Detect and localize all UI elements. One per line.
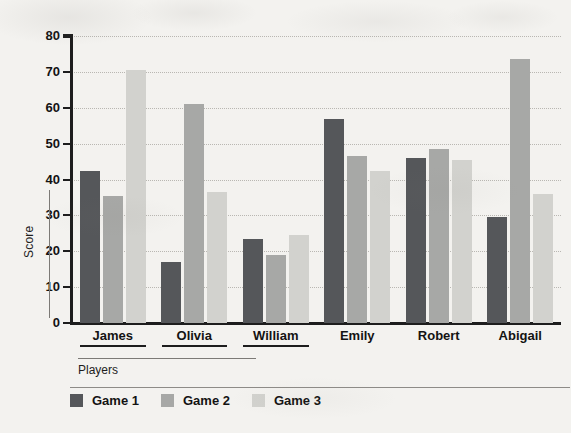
bar[interactable] bbox=[207, 192, 227, 323]
bar[interactable] bbox=[80, 171, 100, 323]
legend-swatch-icon bbox=[161, 394, 174, 407]
x-axis-label: Robert bbox=[398, 328, 480, 343]
x-axis-label: Abigail bbox=[480, 328, 562, 343]
legend-item[interactable]: Game 1 bbox=[70, 393, 139, 408]
bar-group bbox=[235, 36, 317, 323]
bar-group bbox=[72, 36, 154, 323]
x-label-underline bbox=[243, 345, 309, 347]
y-axis-tick-label: 60 bbox=[32, 101, 60, 114]
bar-group bbox=[317, 36, 399, 323]
x-axis-label: Emily bbox=[317, 328, 399, 343]
bar-group bbox=[398, 36, 480, 323]
legend-label: Game 3 bbox=[274, 393, 321, 408]
y-axis-tick-label: 40 bbox=[32, 173, 60, 186]
bar[interactable] bbox=[103, 196, 123, 323]
y-axis-tick bbox=[63, 35, 71, 37]
y-axis-tick bbox=[63, 107, 71, 109]
bar[interactable] bbox=[452, 160, 472, 323]
y-axis-tick bbox=[63, 71, 71, 73]
y-axis-tick bbox=[63, 143, 71, 145]
legend-swatch-icon bbox=[70, 394, 83, 407]
y-axis-tick-label: 70 bbox=[32, 65, 60, 78]
bar[interactable] bbox=[370, 171, 390, 323]
x-axis-labels: JamesOliviaWilliamEmilyRobertAbigail bbox=[72, 328, 561, 343]
y-axis-tick-label: 50 bbox=[32, 137, 60, 150]
bar[interactable] bbox=[243, 239, 263, 323]
x-axis-label: Olivia bbox=[154, 328, 236, 343]
y-axis-tick bbox=[63, 214, 71, 216]
y-axis-tick-label: 20 bbox=[32, 244, 60, 257]
bar[interactable] bbox=[161, 262, 181, 323]
bar[interactable] bbox=[347, 156, 367, 323]
bar[interactable] bbox=[533, 194, 553, 323]
legend-item[interactable]: Game 3 bbox=[252, 393, 321, 408]
legend-item[interactable]: Game 2 bbox=[161, 393, 230, 408]
x-label-underline bbox=[162, 345, 228, 347]
y-axis-tick-label: 30 bbox=[32, 208, 60, 221]
x-axis-label: James bbox=[72, 328, 154, 343]
bar-group bbox=[154, 36, 236, 323]
y-axis-tick bbox=[63, 250, 71, 252]
x-axis-label: William bbox=[235, 328, 317, 343]
chart-legend: Game 1Game 2Game 3 bbox=[70, 393, 321, 408]
y-axis-tick-label: 0 bbox=[32, 316, 60, 329]
y-axis-tick bbox=[63, 286, 71, 288]
bar[interactable] bbox=[406, 158, 426, 323]
legend-label: Game 2 bbox=[183, 393, 230, 408]
bar[interactable] bbox=[184, 104, 204, 323]
bar[interactable] bbox=[324, 119, 344, 323]
legend-label: Game 1 bbox=[92, 393, 139, 408]
bar-chart: 01020304050607080 Score JamesOliviaWilli… bbox=[0, 0, 571, 433]
legend-swatch-icon bbox=[252, 394, 265, 407]
x-axis-title-rule bbox=[78, 358, 256, 359]
bar[interactable] bbox=[487, 217, 507, 323]
bar-groups bbox=[72, 36, 561, 323]
bar[interactable] bbox=[510, 59, 530, 323]
bar-group bbox=[480, 36, 562, 323]
bar[interactable] bbox=[429, 149, 449, 323]
x-axis-title: Players bbox=[78, 363, 118, 377]
y-axis-tick bbox=[63, 179, 71, 181]
y-axis-title-rule bbox=[49, 190, 50, 318]
bar[interactable] bbox=[126, 70, 146, 323]
y-axis-title: Score bbox=[22, 226, 36, 258]
x-label-underline bbox=[80, 345, 146, 347]
y-axis-tick-label: 80 bbox=[32, 29, 60, 42]
legend-divider bbox=[70, 387, 570, 388]
bar[interactable] bbox=[289, 235, 309, 323]
y-axis-tick bbox=[63, 322, 71, 324]
y-axis-tick-label: 10 bbox=[32, 280, 60, 293]
bar[interactable] bbox=[266, 255, 286, 323]
